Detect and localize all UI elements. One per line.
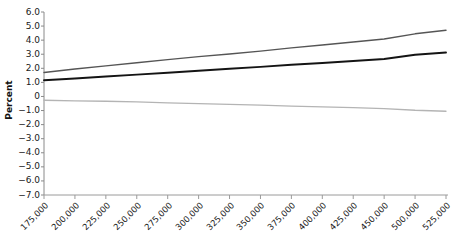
x-tick-label: 325,000 — [88, 201, 236, 245]
y-tick-label: −2.0 — [14, 120, 40, 129]
y-axis-title-label: Percent — [4, 80, 14, 119]
y-tick-label: 3.0 — [14, 50, 40, 59]
x-tick-label: 500,000 — [274, 201, 422, 245]
x-tick-label: 425,000 — [212, 201, 360, 245]
x-tick-label: 375,000 — [150, 201, 298, 245]
plot-area — [44, 12, 448, 195]
line-chart: Percent 6.05.04.03.02.01.00−1.0−2.0−3.0−… — [0, 0, 454, 245]
y-tick-label: −3.0 — [14, 134, 40, 143]
x-tick-label: 450,000 — [243, 201, 391, 245]
axis-lines — [44, 12, 448, 195]
y-tick-label: −6.0 — [14, 176, 40, 185]
x-tick-label: 200,000 — [0, 201, 81, 245]
series-lines — [44, 30, 446, 111]
series-line-lower-line — [44, 100, 446, 111]
y-tick-label: −7.0 — [14, 191, 40, 200]
y-tick-label: −4.0 — [14, 148, 40, 157]
x-tick-label: 300,000 — [57, 201, 205, 245]
plot-svg — [44, 12, 448, 195]
y-tick-label: 6.0 — [14, 8, 40, 17]
series-line-upper-line — [44, 30, 446, 72]
x-tick-label: 525,000 — [305, 201, 453, 245]
y-tick-label: 0 — [14, 92, 40, 101]
y-tick-label: 4.0 — [14, 36, 40, 45]
x-tick-label: 350,000 — [119, 201, 267, 245]
y-tick-label: −1.0 — [14, 106, 40, 115]
y-tick-label: 5.0 — [14, 22, 40, 31]
x-tick-label: 400,000 — [181, 201, 329, 245]
y-tick-label: 1.0 — [14, 78, 40, 87]
y-axis-tick-labels: 6.05.04.03.02.01.00−1.0−2.0−3.0−4.0−5.0−… — [14, 0, 40, 245]
y-tick-label: 2.0 — [14, 64, 40, 73]
x-tick-label: 275,000 — [26, 201, 174, 245]
y-tick-label: −5.0 — [14, 162, 40, 171]
tick-marks — [41, 12, 446, 199]
